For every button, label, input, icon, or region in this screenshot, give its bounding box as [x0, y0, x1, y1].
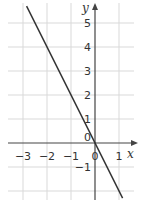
- y-axis-arrow-icon: [92, 3, 98, 10]
- x-tick-label: −3: [15, 150, 31, 163]
- x-axis-arrow-icon: [131, 140, 138, 146]
- grid-lines: [8, 3, 134, 200]
- y-tick-label: 1: [84, 113, 91, 126]
- y-tick-label: −1: [75, 161, 91, 174]
- x-tick-label: 0: [92, 150, 99, 163]
- y-axis: [92, 3, 98, 200]
- y-tick-label: 4: [84, 41, 91, 54]
- graph-canvas: −3−2−10154321−10 x y: [0, 0, 142, 217]
- origin-label: 0: [84, 131, 91, 144]
- y-axis-label: y: [81, 1, 89, 15]
- x-axis-label: x: [127, 147, 134, 161]
- y-tick-label: 2: [84, 89, 91, 102]
- y-tick-label: 5: [84, 17, 91, 30]
- x-tick-label: 1: [116, 150, 123, 163]
- y-tick-label: 3: [84, 65, 91, 78]
- x-tick-label: −2: [39, 150, 55, 163]
